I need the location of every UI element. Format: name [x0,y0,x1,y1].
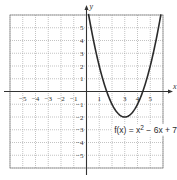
y-tick-label: 3 [80,50,84,58]
equation-label: f(x) = x2 − 6x + 7 [114,124,177,135]
annotations: f(x) = x2 − 6x + 7 [112,124,177,136]
function-graph: xy −5−4−3−2−1134554321−1−2−3−4−5 f(x) = … [0,0,177,180]
x-tick-label: 5 [149,95,153,103]
y-tick-label: 5 [80,24,84,32]
y-tick-label: 4 [80,37,84,45]
x-axis-label: x [172,82,177,91]
y-axis-label: y [89,2,94,11]
x-tick-label: −2 [57,95,65,103]
y-axis-arrow-icon [85,5,89,10]
y-tick-label: 1 [80,75,84,83]
y-tick-label: −2 [76,114,84,122]
x-tick-label: −4 [32,95,40,103]
equation-base: f(x) = x [114,125,141,135]
y-tick-label: −3 [76,126,84,134]
y-tick-label: −5 [76,152,84,160]
y-tick-label: 2 [80,63,84,71]
x-tick-label: −3 [45,95,53,103]
x-tick-label: 1 [98,95,102,103]
x-tick-label: −5 [19,95,27,103]
y-tick-label: −4 [76,139,84,147]
equation-rest: − 6x + 7 [144,125,177,135]
y-tick-label: −1 [76,101,84,109]
x-tick-label: 3 [123,95,127,103]
